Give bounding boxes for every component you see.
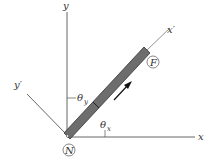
x-prime-axis-label: x′ <box>167 24 176 35</box>
point-F-label: F <box>149 57 158 68</box>
diagram-canvas: F N y x y′ x′ θ y θ x <box>0 0 214 163</box>
x-axis-label: x <box>198 131 204 142</box>
theta-x-label: θ <box>100 119 106 130</box>
point-N-label: N <box>64 145 75 156</box>
theta-y-subscript: y <box>83 98 89 106</box>
pin-hole <box>66 135 68 137</box>
y-axis-label: y <box>62 0 69 11</box>
theta-x-subscript: x <box>107 125 111 133</box>
y-prime-axis <box>27 94 67 135</box>
theta-y-label: θ <box>77 92 83 103</box>
y-prime-axis-label: y′ <box>13 79 23 90</box>
